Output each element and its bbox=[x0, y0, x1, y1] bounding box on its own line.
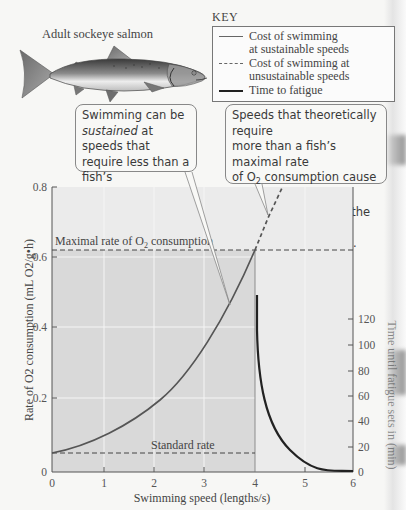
y-tick-label: 0.8 bbox=[33, 181, 48, 193]
x-tick-label: 4 bbox=[252, 477, 258, 489]
x-tick-label: 3 bbox=[201, 477, 207, 489]
y-axis-label-right: Time until fatigue sets in (min) bbox=[385, 320, 399, 469]
max-rate-label: Maximal rate of O2 consumption bbox=[55, 234, 213, 250]
chart: 0.8 0.6 0.4 0.2 0 0 1 2 3 4 5 6 Swimming… bbox=[0, 0, 406, 510]
y-tick-label-right: 80 bbox=[358, 365, 370, 377]
y-tick-label-right: 0 bbox=[358, 466, 364, 478]
x-tick-label: 0 bbox=[49, 477, 55, 489]
y-tick-label-right: 100 bbox=[358, 339, 376, 351]
x-tick-label: 1 bbox=[101, 477, 107, 489]
y-tick-label-right: 20 bbox=[358, 441, 370, 453]
y-tick-label-right: 60 bbox=[358, 390, 370, 402]
x-tick-labels: 0 1 2 3 4 5 6 bbox=[49, 477, 356, 489]
x-tick-label: 5 bbox=[302, 477, 308, 489]
y-tick-labels-right: 120 100 80 60 40 20 0 bbox=[358, 313, 376, 478]
y-axis-label: Rate of O2 consumption (mL O2/g•h) bbox=[22, 239, 36, 421]
y-tick-label-right: 40 bbox=[358, 415, 370, 427]
x-axis-label: Swimming speed (lengths/s) bbox=[134, 491, 271, 505]
standard-rate-label: Standard rate bbox=[151, 438, 215, 452]
x-tick-label: 2 bbox=[151, 477, 157, 489]
y-tick-label: 0 bbox=[41, 466, 47, 478]
y-tick-label-right: 120 bbox=[358, 313, 376, 325]
x-tick-label: 6 bbox=[350, 477, 356, 489]
